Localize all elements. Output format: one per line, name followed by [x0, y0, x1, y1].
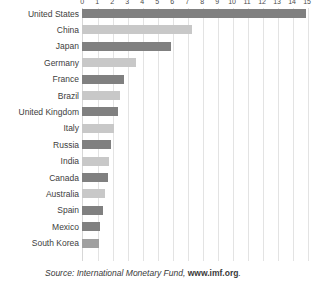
category-label: Japan [0, 41, 79, 51]
bar [82, 107, 118, 116]
category-label: Mexico [0, 222, 79, 232]
category-label: Germany [0, 58, 79, 68]
bar [82, 124, 114, 133]
x-tick-label: 10 [228, 0, 235, 6]
category-label: United States [0, 9, 79, 19]
bar [82, 75, 124, 84]
category-label: Russia [0, 140, 79, 150]
x-tick-label: 3 [125, 0, 129, 6]
category-label: Spain [0, 205, 79, 215]
bars-layer [82, 8, 315, 261]
bar [82, 9, 306, 18]
x-tick-label: 9 [215, 0, 219, 6]
category-label: India [0, 156, 79, 166]
x-tick-label: 11 [244, 0, 251, 6]
source-suffix: . [238, 268, 240, 278]
x-tick-label: 1 [95, 0, 99, 6]
bar [82, 239, 99, 248]
x-tick-label: 12 [258, 0, 265, 6]
bar [82, 157, 109, 166]
category-label: Canada [0, 173, 79, 183]
bar [82, 91, 120, 100]
bar [82, 173, 108, 182]
x-tick-label: 14 [288, 0, 295, 6]
bar [82, 222, 100, 231]
bar [82, 140, 111, 149]
category-label: France [0, 74, 79, 84]
source-url[interactable]: www.imf.org [188, 268, 239, 278]
category-axis-labels: United StatesChinaJapanGermanyFranceBraz… [0, 8, 79, 261]
x-tick-label: 13 [273, 0, 280, 6]
category-label: United Kingdom [0, 107, 79, 117]
bar [82, 189, 105, 198]
source-prefix: Source: International Monetary Fund, [45, 268, 188, 278]
bar [82, 25, 192, 34]
category-label: Australia [0, 189, 79, 199]
x-tick-label: 4 [140, 0, 144, 6]
bar [82, 58, 136, 67]
category-label: China [0, 25, 79, 35]
category-label: Italy [0, 123, 79, 133]
bar [82, 42, 171, 51]
bar-chart: 0123456789101112131415 United StatesChin… [0, 0, 315, 283]
x-tick-label: 0 [80, 0, 84, 6]
x-tick-label: 8 [200, 0, 204, 6]
x-tick-label: 5 [155, 0, 159, 6]
category-label: Brazil [0, 91, 79, 101]
x-tick-label: 2 [110, 0, 114, 6]
x-tick-label: 7 [185, 0, 189, 6]
x-tick-label: 15 [303, 0, 310, 6]
x-tick-label: 6 [170, 0, 174, 6]
bar [82, 206, 103, 215]
category-label: South Korea [0, 238, 79, 248]
source-note: Source: International Monetary Fund, www… [45, 268, 241, 278]
